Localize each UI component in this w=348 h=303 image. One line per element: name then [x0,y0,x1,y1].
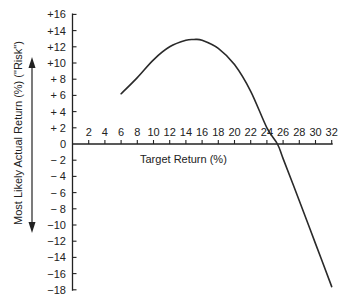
x-tick-label: 2 [86,126,92,138]
y-tick-label: + 6 [50,89,66,101]
y-tick-label: − 6 [50,187,66,199]
y-tick-label: − 4 [50,170,66,182]
y-tick-label: 0 [60,138,66,150]
x-tick-label: 26 [277,126,289,138]
x-tick-label: 16 [196,126,208,138]
y-tick-label: −16 [47,268,66,280]
x-axis-title: Target Return (%) [140,153,227,165]
x-tick-label: 28 [293,126,305,138]
y-tick-label: − 8 [50,203,66,215]
y-axis: +16+14+12+10+ 8+ 6+ 4+ 20− 2− 4− 6− 8−10… [47,8,76,295]
y-tick-label: +12 [47,41,66,53]
y-tick-label: −18 [47,284,66,296]
y-tick-label: −14 [47,251,66,263]
y-axis-title-group: Most Likely Actual Return (%) ("Risk") [12,41,36,233]
arrow-down-icon [29,222,36,233]
x-tick-label: 6 [118,126,124,138]
line-chart: +16+14+12+10+ 8+ 6+ 4+ 20− 2− 4− 6− 8−10… [0,0,348,303]
y-axis-title: Most Likely Actual Return (%) ("Risk") [12,41,24,225]
y-tick-label: + 8 [50,73,66,85]
y-tick-label: − 2 [50,154,66,166]
x-tick-label: 8 [134,126,140,138]
x-axis: 2468101214161820222426283032 [73,126,338,144]
x-tick-label: 12 [164,126,176,138]
arrow-up-icon [29,57,36,68]
x-tick-label: 18 [212,126,224,138]
y-tick-label: +10 [47,57,66,69]
x-tick-label: 14 [180,126,192,138]
x-tick-label: 4 [102,126,108,138]
x-tick-label: 32 [326,126,338,138]
y-tick-label: +14 [47,25,66,37]
x-tick-label: 22 [245,126,257,138]
y-tick-label: −10 [47,219,66,231]
x-tick-label: 10 [147,126,159,138]
x-tick-label: 20 [228,126,240,138]
y-tick-label: −12 [47,235,66,247]
y-tick-label: + 2 [50,122,66,134]
x-tick-label: 30 [309,126,321,138]
y-tick-label: +16 [47,8,66,20]
y-tick-label: + 4 [50,106,66,118]
